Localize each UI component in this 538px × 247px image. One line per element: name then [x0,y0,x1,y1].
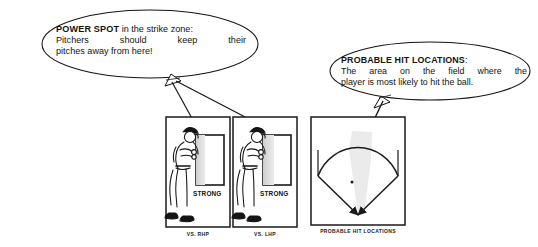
callout-probable-hit-line2: The area on the field where the [341,66,527,77]
callout-probable-hit-line3: player is most likely to hit the ball. [341,77,527,88]
callout-power-spot-text: POWER SPOT in the strike zone: Pitchers … [56,24,246,57]
callout-probable-hit-heading: PROBABLE HIT LOCATIONS [341,55,465,65]
callout-power-spot-heading-suffix: in the strike zone: [119,24,193,34]
vs-lhp-strong-label: STRONG [260,190,289,197]
vs-rhp-caption: VS. RHP [166,231,230,237]
callout-power-spot-line1: POWER SPOT in the strike zone: [56,24,246,35]
field-panel [311,117,405,225]
callout-probable-hit-line1: PROBABLE HIT LOCATIONS: [341,55,527,66]
vs-lhp-caption: VS. LHP [233,231,297,237]
callout-probable-hit-text: PROBABLE HIT LOCATIONS: The area on the … [341,55,527,88]
vs-lhp-panel [232,117,297,227]
vs-rhp-strong-label: STRONG [193,190,222,197]
callout-power-spot-line3: pitches away from here! [56,46,246,57]
callout-power-spot-heading: POWER SPOT [56,24,119,34]
callout-probable-hit-heading-suffix: : [465,55,467,65]
vs-rhp-panel [165,117,230,227]
figure-canvas: POWER SPOT in the strike zone: Pitchers … [0,0,538,247]
callout-power-spot-line2: Pitchers should keep their [56,35,246,46]
vs-lhp-power-spot-shade [263,135,274,185]
field-center-dot [351,181,354,184]
vs-rhp-power-spot-shade [196,135,205,185]
field-panel-caption: PROBABLE HIT LOCATIONS [306,228,410,234]
